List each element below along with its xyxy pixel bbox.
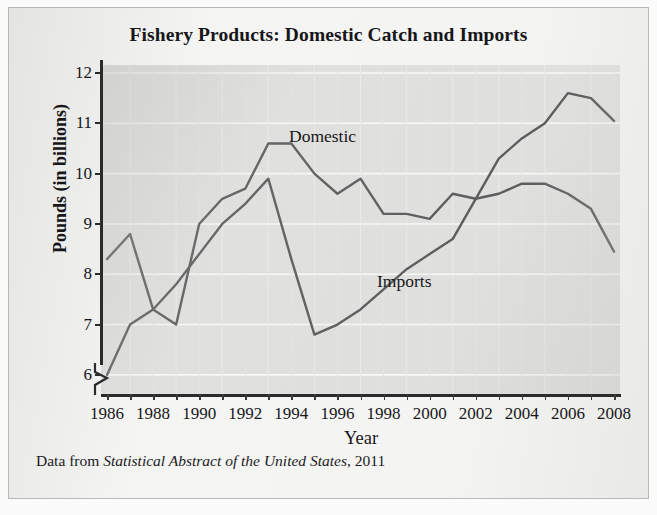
x-tick-mark <box>268 394 270 400</box>
source-title: Statistical Abstract of the United State… <box>103 452 347 469</box>
y-tick-mark <box>95 72 101 74</box>
y-axis-line <box>100 60 103 365</box>
series-label-imports: Imports <box>377 271 431 292</box>
y-tick-mark <box>95 223 101 225</box>
x-tick-mark <box>361 394 363 400</box>
y-tick-mark <box>95 374 101 376</box>
x-tick-mark <box>384 394 386 400</box>
x-tick-mark <box>314 394 316 400</box>
x-tick-mark <box>176 394 178 400</box>
x-tick-mark <box>245 394 247 400</box>
x-tick-mark <box>591 394 593 400</box>
x-tick-mark <box>430 394 432 400</box>
x-axis-title: Year <box>101 428 621 449</box>
y-tick-label: 6 <box>62 366 92 383</box>
plot-svg <box>101 65 620 395</box>
series-label-domestic: Domestic <box>289 126 356 147</box>
figure-page: Fishery Products: Domestic Catch and Imp… <box>0 0 657 515</box>
y-tick-label: 7 <box>62 316 92 333</box>
x-tick-mark <box>453 394 455 400</box>
x-tick-mark <box>291 394 293 400</box>
x-tick-label: 2008 <box>584 404 644 424</box>
x-tick-mark <box>568 394 570 400</box>
x-tick-mark <box>522 394 524 400</box>
source-prefix: Data from <box>36 452 99 469</box>
source-suffix: , 2011 <box>347 452 385 469</box>
x-tick-mark <box>337 394 339 400</box>
x-tick-mark <box>614 394 616 400</box>
y-tick-mark <box>95 122 101 124</box>
x-tick-mark <box>499 394 501 400</box>
x-tick-mark <box>222 394 224 400</box>
plot-area <box>101 65 620 395</box>
y-tick-mark <box>95 324 101 326</box>
x-tick-mark <box>476 394 478 400</box>
x-tick-mark <box>107 394 109 400</box>
y-tick-mark <box>95 273 101 275</box>
x-tick-mark <box>407 394 409 400</box>
axis-break-icon <box>92 362 112 396</box>
y-tick-mark <box>95 173 101 175</box>
y-axis-title: Pounds (in billions) <box>50 59 71 299</box>
x-tick-mark <box>130 394 132 400</box>
x-tick-mark <box>199 394 201 400</box>
x-tick-mark <box>153 394 155 400</box>
page-title: Fishery Products: Domestic Catch and Imp… <box>0 24 657 46</box>
source-note: Data from Statistical Abstract of the Un… <box>36 452 385 470</box>
x-tick-mark <box>545 394 547 400</box>
